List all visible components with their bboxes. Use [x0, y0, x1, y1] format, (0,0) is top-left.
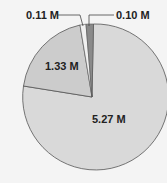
pie-chart: 0.11 M 0.10 M 1.33 M 5.27 M	[0, 0, 167, 183]
label-0-11m: 0.11 M	[26, 9, 59, 21]
leader-line-0-11m	[58, 15, 83, 26]
label-1-33m: 1.33 M	[45, 60, 79, 72]
label-5-27m: 5.27 M	[92, 113, 126, 125]
label-0-10m: 0.10 M	[116, 9, 150, 21]
